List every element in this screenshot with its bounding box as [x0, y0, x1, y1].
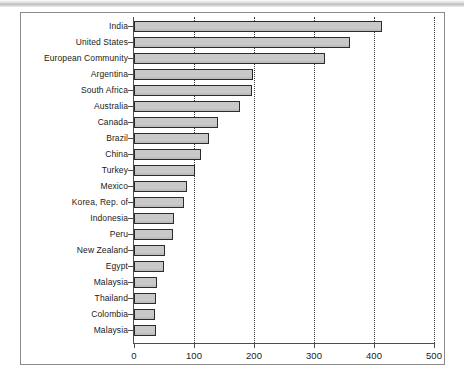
- bar: [134, 293, 156, 304]
- bar-row: [134, 194, 184, 210]
- bar-row: [134, 290, 156, 306]
- bar: [134, 101, 240, 112]
- category-label: Egypt: [106, 258, 128, 274]
- bar-row: [134, 306, 155, 322]
- y-axis-tick: [128, 330, 134, 331]
- category-label: Turkey: [102, 162, 128, 178]
- bar: [134, 213, 174, 224]
- y-axis-tick: [128, 202, 134, 203]
- category-label: New Zealand: [77, 242, 128, 258]
- x-axis-tick-label: 0: [131, 350, 136, 361]
- y-axis-tick: [128, 234, 134, 235]
- y-axis-tick: [128, 250, 134, 251]
- category-label: United States: [76, 34, 128, 50]
- category-label: European Community: [44, 50, 128, 66]
- scan-artifact-band: [0, 0, 464, 7]
- y-axis-tick: [128, 42, 134, 43]
- bar-row: [134, 226, 173, 242]
- bar-row: [134, 178, 187, 194]
- bar-row: [134, 18, 382, 34]
- y-axis-tick: [128, 282, 134, 283]
- y-axis-tick: [128, 266, 134, 267]
- category-label: Colombia: [91, 306, 128, 322]
- bar-row: [134, 322, 156, 338]
- category-label: Indonesia: [90, 210, 128, 226]
- x-axis-tick-300: [314, 343, 315, 348]
- category-label: South Africa: [81, 82, 128, 98]
- y-axis-tick: [128, 170, 134, 171]
- x-axis-tick-label: 100: [186, 350, 202, 361]
- x-axis-tick-500: [434, 343, 435, 348]
- category-label: India: [109, 18, 128, 34]
- bar: [134, 277, 157, 288]
- category-label: Canada: [98, 114, 128, 130]
- y-axis-tick: [128, 106, 134, 107]
- plot-area: 0100200300400500IndiaUnited StatesEurope…: [133, 17, 434, 344]
- bar: [134, 21, 382, 32]
- x-axis-tick-0: [134, 343, 135, 348]
- y-axis-tick: [128, 138, 134, 139]
- bar: [134, 133, 209, 144]
- bar-row: [134, 242, 165, 258]
- bar: [134, 37, 350, 48]
- y-axis-tick: [128, 58, 134, 59]
- category-label: Australia: [94, 98, 128, 114]
- category-label: China: [105, 146, 128, 162]
- y-axis-tick: [128, 314, 134, 315]
- y-axis-tick: [128, 186, 134, 187]
- bar-row: [134, 34, 350, 50]
- y-axis-tick: [128, 90, 134, 91]
- category-label: Mexico: [100, 178, 128, 194]
- bar-row: [134, 82, 252, 98]
- chart-area: 0100200300400500IndiaUnited StatesEurope…: [21, 13, 444, 364]
- chart-outer-frame: 0100200300400500IndiaUnited StatesEurope…: [20, 12, 445, 365]
- x-axis-tick-label: 200: [246, 350, 262, 361]
- bar-row: [134, 50, 325, 66]
- bar: [134, 53, 325, 64]
- bar-series: [134, 17, 434, 343]
- bar: [134, 149, 201, 160]
- bar-row: [134, 146, 201, 162]
- bar-row: [134, 98, 240, 114]
- bar-row: [134, 274, 157, 290]
- category-label: Thailand: [95, 290, 128, 306]
- x-axis-tick-400: [374, 343, 375, 348]
- bar: [134, 325, 156, 336]
- bar: [134, 197, 184, 208]
- bar-row: [134, 130, 209, 146]
- bar-row: [134, 162, 195, 178]
- x-axis-tick-label: 500: [426, 350, 442, 361]
- bar: [134, 117, 218, 128]
- bar: [134, 165, 195, 176]
- category-label: Malaysia: [94, 322, 128, 338]
- x-axis-tick-200: [254, 343, 255, 348]
- y-axis-tick: [128, 26, 134, 27]
- y-axis-tick: [128, 122, 134, 123]
- bar-row: [134, 66, 253, 82]
- y-axis-tick: [128, 218, 134, 219]
- bar: [134, 69, 253, 80]
- y-axis-tick: [128, 298, 134, 299]
- category-label: Brazil: [106, 130, 128, 146]
- y-axis-tick: [128, 74, 134, 75]
- category-label: Korea, Rep. of: [72, 194, 128, 210]
- x-axis-tick-label: 300: [306, 350, 322, 361]
- bar: [134, 229, 173, 240]
- bar: [134, 181, 187, 192]
- bar-row: [134, 210, 174, 226]
- bar: [134, 245, 165, 256]
- x-axis-tick-100: [194, 343, 195, 348]
- category-label: Peru: [110, 226, 128, 242]
- bar: [134, 85, 252, 96]
- bar-row: [134, 114, 218, 130]
- y-axis-tick: [128, 154, 134, 155]
- x-axis-tick-label: 400: [366, 350, 382, 361]
- bar: [134, 261, 164, 272]
- gridline-x-500: [434, 17, 435, 343]
- bar-row: [134, 258, 164, 274]
- category-label: Malaysia: [94, 274, 128, 290]
- category-label: Argentina: [91, 66, 128, 82]
- bar: [134, 309, 155, 320]
